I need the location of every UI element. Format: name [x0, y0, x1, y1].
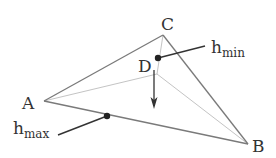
vertex-label-C: C	[161, 14, 174, 34]
h-min-leader	[158, 46, 205, 58]
edge-AB	[44, 101, 248, 144]
tetrahedron-figure: C D A B hmin hmax	[0, 0, 276, 158]
edge-DB	[157, 74, 248, 144]
h-min-label: hmin	[211, 37, 245, 60]
edge-AD	[44, 74, 157, 101]
diagram: C D A B hmin hmax	[0, 0, 276, 158]
h-max-point	[104, 113, 110, 119]
vertex-label-D: D	[138, 56, 152, 76]
h-max-label: hmax	[13, 118, 49, 141]
vertex-label-B: B	[252, 136, 265, 156]
h-min-point	[155, 55, 161, 61]
edge-CD	[157, 35, 163, 74]
h-max-leader	[58, 116, 107, 135]
vertex-label-A: A	[21, 93, 35, 113]
